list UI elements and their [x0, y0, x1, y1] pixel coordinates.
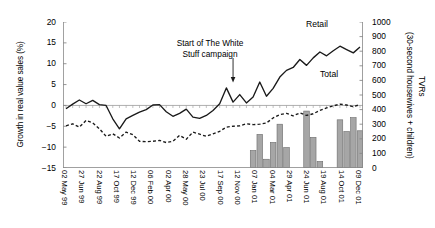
- right-tick-label: 400: [372, 104, 402, 114]
- tvr-bar: [310, 137, 316, 168]
- x-tick-label: 28 May 00: [181, 170, 190, 205]
- tvr-bar: [264, 159, 270, 168]
- right-tick-label: 0: [372, 163, 402, 173]
- campaign-annotation-line1: Start of The White: [150, 38, 270, 49]
- right-axis-title-sub: (30-second housewives + children): [405, 32, 414, 159]
- x-tick-label: 19 Aug 01: [319, 170, 328, 204]
- left-tick-label: −5: [30, 121, 56, 131]
- left-tick-label: −10: [30, 142, 56, 152]
- left-tick-label: 10: [30, 58, 56, 68]
- tvr-bar: [284, 148, 290, 168]
- x-tick-label: 24 Jun 01: [302, 170, 311, 203]
- x-tick-label: 02 May 99: [60, 170, 69, 205]
- tvr-bar: [357, 131, 363, 168]
- right-tick-label: 200: [372, 133, 402, 143]
- tvr-bar: [257, 134, 263, 168]
- left-tick-label: 0: [30, 100, 56, 110]
- tvr-bar: [304, 111, 310, 168]
- right-tick-label: 800: [372, 46, 402, 56]
- left-axis-title-text: Growth in real value sales (%): [16, 41, 25, 147]
- right-tick-label: 900: [372, 31, 402, 41]
- tvr-bar: [344, 132, 350, 169]
- left-tick-label: −15: [30, 163, 56, 173]
- x-tick-label: 17 Sep 00: [216, 170, 225, 205]
- x-tick-label: 29 Apr 01: [285, 170, 294, 203]
- x-tick-label: 12 Dec 99: [129, 170, 138, 205]
- campaign-annotation-line2: Stuff campaign: [150, 49, 270, 60]
- series-label-total: Total: [320, 69, 338, 79]
- right-tick-label: 1000: [372, 17, 402, 27]
- tvr-bar: [337, 120, 343, 168]
- x-axis-labels: 02 May 9927 Jun 9922 Aug 9917 Oct 9912 D…: [63, 170, 363, 228]
- left-tick-label: 15: [30, 37, 56, 47]
- x-tick-label: 04 Mar 01: [268, 170, 277, 204]
- right-tick-label: 100: [372, 148, 402, 158]
- right-tick-label: 700: [372, 60, 402, 70]
- x-tick-label: 23 Jul 00: [198, 170, 207, 201]
- left-tick-label: 5: [30, 79, 56, 89]
- x-tick-label: 27 Jun 99: [77, 170, 86, 203]
- tvr-bar: [250, 150, 256, 168]
- right-tick-label: 600: [372, 75, 402, 85]
- tvr-bar: [317, 161, 323, 168]
- right-tick-label: 300: [372, 119, 402, 129]
- left-axis-title: Growth in real value sales (%): [11, 18, 29, 170]
- series-label-retail: Retail: [306, 19, 328, 29]
- right-tick-label: 500: [372, 90, 402, 100]
- chart-root: Growth in real value sales (%) TVRs (30-…: [0, 0, 435, 228]
- x-tick-label: 09 Dec 01: [354, 170, 363, 205]
- annotation-arrow-head: [231, 77, 236, 83]
- x-tick-label: 14 Oct 01: [337, 170, 346, 203]
- x-tick-label: 22 Aug 99: [95, 170, 104, 204]
- tvr-bar: [277, 124, 283, 168]
- x-tick-label: 07 Jan 01: [250, 170, 259, 203]
- x-tick-label: 17 Oct 99: [112, 170, 121, 203]
- tvr-bar: [351, 118, 357, 168]
- x-tick-label: 12 Nov 00: [233, 170, 242, 205]
- tvr-bar: [270, 142, 276, 168]
- right-axis-title-main: TVRs: [417, 76, 426, 96]
- x-tick-label: 06 Feb 00: [146, 170, 155, 204]
- left-tick-label: 20: [30, 17, 56, 27]
- campaign-annotation: Start of The White Stuff campaign: [150, 38, 270, 59]
- x-tick-label: 02 Apr 00: [164, 170, 173, 203]
